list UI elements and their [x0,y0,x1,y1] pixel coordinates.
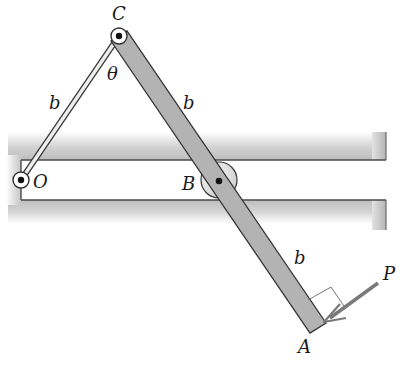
label-c: C [112,3,126,24]
mechanism-diagram: C θ b b O B b P A [0,0,403,365]
label-b-cb: b [183,92,195,113]
label-b-link: b [49,92,61,113]
pin-b [216,178,223,185]
lower-guide-rail [8,200,386,230]
label-theta: θ [107,63,118,84]
label-b-point: B [181,173,195,194]
label-a: A [296,336,311,357]
label-b-ba: b [294,247,306,268]
label-o: O [33,171,48,192]
label-p: P [382,263,396,284]
pin-o [13,172,29,188]
pin-c [111,28,127,44]
